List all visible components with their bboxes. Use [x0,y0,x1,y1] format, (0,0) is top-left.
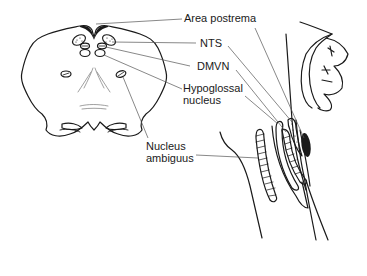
label-hypoglossal-line2: nucleus [183,94,221,106]
nts-left [71,33,88,48]
leader-nucleus-ambiguus-right [196,155,258,158]
nts-right [101,33,118,48]
label-dmvn: DMVN [197,60,229,72]
leader-area-postrema-left [96,19,182,24]
pyramid-left [62,123,82,129]
area-postrema-left [80,26,94,40]
leader-dmvn-left [106,47,190,66]
leader-hypoglossal-left [104,55,182,89]
label-nucleus-ambiguus-line2: ambiguus [146,152,194,164]
leader-nucleus-ambiguus-left [123,77,148,138]
leader-nts-left [112,42,196,43]
label-hypoglossal-line1: Hypoglossal [183,82,243,94]
area-postrema-right [94,26,108,40]
hypoglossal-left [80,50,90,57]
pyramid-right [106,123,126,129]
label-nts: NTS [200,37,222,49]
diagram-drawing [0,0,367,276]
label-area-postrema: Area postrema [184,12,256,24]
diagram-canvas: Area postrema NTS DMVN Hypoglossal nucle… [0,0,367,276]
hypoglossal-right [95,50,105,57]
brainstem-ventral-curve [220,132,262,238]
leader-hypoglossal-right [245,96,278,124]
label-nucleus-ambiguus-line1: Nucleus [146,140,186,152]
leader-dmvn-right [236,70,286,132]
